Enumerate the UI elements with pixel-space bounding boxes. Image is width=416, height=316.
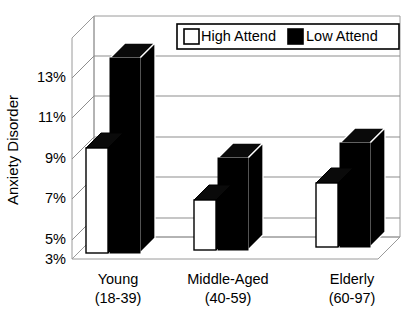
- bar-side-face: [108, 133, 123, 253]
- bar-side-face: [140, 43, 155, 253]
- black-square-icon: [288, 29, 303, 44]
- y-tick-label: 9%: [45, 150, 66, 166]
- x-category-label-middle-aged: Middle-Aged: [187, 271, 268, 287]
- chart-canvas: 13% 11% 9% 7% 5% 3% Anxiety Disorder: [0, 0, 416, 316]
- chart-legend: High Attend Low Attend: [177, 24, 399, 49]
- y-tick-label: 5%: [45, 231, 66, 247]
- bar-front-face: [194, 200, 216, 250]
- bar-middleaged-high-attend: [194, 185, 231, 250]
- bar-group-young: [86, 43, 155, 253]
- legend-label-high-attend: High Attend: [201, 28, 276, 44]
- bar-front-face: [316, 183, 338, 247]
- anxiety-disorder-bar-chart: 13% 11% 9% 7% 5% 3% Anxiety Disorder: [0, 0, 416, 316]
- bar-group-elderly: [316, 128, 385, 247]
- gridline-depth-11: [72, 96, 94, 118]
- x-axis-labels: Young (18-39) Middle-Aged (40-59) Elderl…: [95, 271, 376, 306]
- gridline-depth-13: [72, 56, 94, 78]
- bar-side-face: [248, 143, 263, 250]
- x-category-label-elderly: Elderly: [330, 271, 375, 287]
- x-category-range-middle-aged: (40-59): [205, 290, 252, 306]
- bar-side-face: [370, 128, 385, 247]
- y-axis-ticks: 13% 11% 9% 7% 5% 3%: [37, 69, 66, 267]
- bar-group-middle-aged: [194, 143, 263, 250]
- legend-label-low-attend: Low Attend: [306, 28, 378, 44]
- white-square-icon: [184, 29, 199, 44]
- bar-young-high-attend: [86, 133, 123, 253]
- bar-front-face: [86, 148, 108, 253]
- y-tick-label: 11%: [38, 109, 66, 125]
- y-axis-title: Anxiety Disorder: [4, 95, 21, 205]
- x-category-range-young: (18-39): [95, 290, 142, 306]
- y-tick-label: 3%: [45, 251, 66, 267]
- y-tick-label: 13%: [37, 69, 66, 85]
- x-category-label-young: Young: [98, 271, 139, 287]
- y-tick-label: 7%: [45, 190, 66, 206]
- x-category-range-elderly: (60-97): [329, 290, 376, 306]
- bar-elderly-high-attend: [316, 168, 353, 247]
